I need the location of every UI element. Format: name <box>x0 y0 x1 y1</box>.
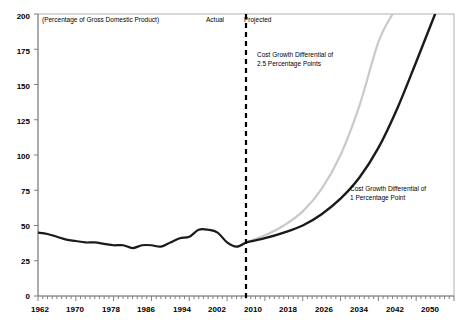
x-tick-label: 2026 <box>304 305 344 314</box>
y-tick-label: 100 <box>4 152 30 161</box>
y-tick-label: 50 <box>4 222 30 231</box>
annotation-high-growth: Cost Growth Differential of 2.5 Percenta… <box>257 50 333 68</box>
x-tick-label: 1986 <box>126 305 166 314</box>
y-tick-label: 75 <box>4 187 30 196</box>
annotation-low-growth-line2: 1 Percentage Point <box>350 193 426 202</box>
annotation-high-growth-line1: Cost Growth Differential of <box>257 50 333 59</box>
annotation-low-growth: Cost Growth Differential of 1 Percentage… <box>350 184 426 202</box>
x-tick-label: 2018 <box>268 305 308 314</box>
x-tick-label: 2002 <box>197 305 237 314</box>
chart-container: 200 175 150 125 100 75 50 25 0 1962 1970… <box>0 0 470 324</box>
y-tick-label: 175 <box>4 47 30 56</box>
y-tick-label: 0 <box>4 292 30 301</box>
chart-plot-area <box>0 0 470 324</box>
y-tick-label: 125 <box>4 117 30 126</box>
x-tick-label: 1962 <box>20 305 60 314</box>
x-tick-label: 2034 <box>339 305 379 314</box>
chart-subtitle: (Percentage of Gross Domestic Product) <box>42 15 159 24</box>
plot-border <box>38 14 454 296</box>
y-tick-label: 200 <box>4 12 30 21</box>
y-tick-label: 25 <box>4 257 30 266</box>
annotation-high-growth-line2: 2.5 Percentage Points <box>257 59 333 68</box>
x-tick-label: 1978 <box>91 305 131 314</box>
x-tick-label: 1994 <box>162 305 202 314</box>
x-tick-label: 2050 <box>410 305 450 314</box>
x-tick-label: 1970 <box>55 305 95 314</box>
x-tick-label: 2010 <box>233 305 273 314</box>
divider-label-projected: Projected <box>244 15 271 24</box>
annotation-low-growth-line1: Cost Growth Differential of <box>350 184 426 193</box>
y-tick-label: 150 <box>4 82 30 91</box>
divider-label-actual: Actual <box>206 15 224 24</box>
x-tick-label: 2042 <box>375 305 415 314</box>
